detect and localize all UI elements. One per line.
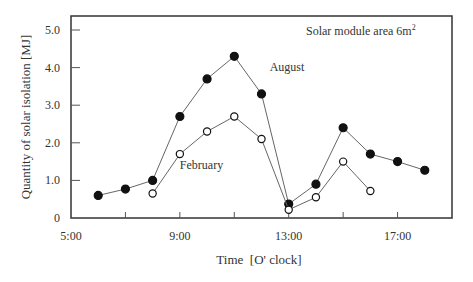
annotation-superscript: 2 — [412, 23, 416, 32]
data-point — [231, 113, 238, 120]
data-point — [312, 194, 319, 201]
data-point — [340, 158, 347, 165]
data-series — [94, 52, 429, 213]
data-point — [366, 150, 374, 158]
data-point — [394, 158, 402, 166]
annotation-main: Solar module area 6m — [306, 24, 412, 38]
y-axis-ticks: 01.02.03.04.05.0 — [45, 23, 80, 225]
solar-isolation-chart: 01.02.03.04.05.0 5:009:0013:0017:00 Quan… — [0, 0, 473, 282]
series-label-august: August — [270, 60, 305, 74]
y-tick-label: 3.0 — [45, 98, 60, 112]
data-point — [121, 185, 129, 193]
y-tick-label: 4.0 — [45, 61, 60, 75]
data-point — [367, 187, 374, 194]
series-line — [98, 56, 425, 204]
x-axis-label: Time [O' clock] — [216, 252, 301, 267]
data-point — [176, 150, 183, 157]
y-tick-label: 2.0 — [45, 136, 60, 150]
x-tick-label: 13:00 — [275, 229, 302, 243]
y-tick-label: 1.0 — [45, 173, 60, 187]
data-point — [312, 180, 320, 188]
data-point — [203, 128, 210, 135]
data-point — [258, 135, 265, 142]
data-point — [149, 190, 156, 197]
x-tick-label: 5:00 — [60, 229, 81, 243]
annotation-text: Solar module area 6m2 — [306, 23, 416, 38]
data-point — [94, 191, 102, 199]
series-label-february: February — [180, 158, 223, 172]
data-point — [230, 52, 238, 60]
data-point — [285, 206, 292, 213]
data-point — [258, 90, 266, 98]
x-tick-label: 17:00 — [384, 229, 411, 243]
x-tick-label: 9:00 — [169, 229, 190, 243]
series-august — [94, 52, 429, 208]
x-axis-ticks: 5:009:0013:0017:00 — [60, 212, 411, 243]
y-axis-label: Quantity of solar isolation [MJ] — [18, 35, 33, 200]
data-point — [339, 124, 347, 132]
data-point — [149, 176, 157, 184]
series-labels: AugustFebruary — [180, 60, 305, 172]
y-tick-label: 5.0 — [45, 23, 60, 37]
y-tick-label: 0 — [54, 211, 60, 225]
data-point — [203, 75, 211, 83]
data-point — [176, 112, 184, 120]
data-point — [421, 166, 429, 174]
